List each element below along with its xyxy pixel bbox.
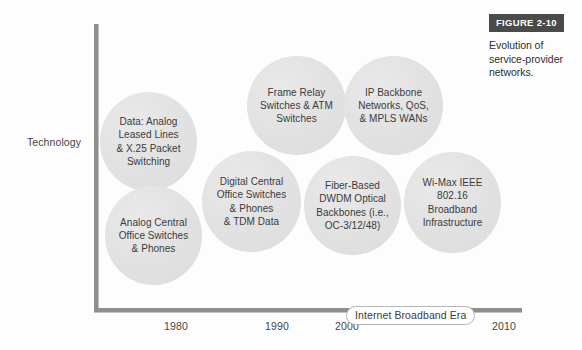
x-tick-1990: 1990: [253, 320, 301, 332]
bubble-analog-central-label: Analog Central Office Switches & Phones: [119, 216, 188, 256]
bubble-digital-central-label: Digital Central Office Switches & Phones…: [217, 175, 286, 228]
bubble-wi-max: Wi-Max IEEE 802.16 Broadband Infrastruct…: [404, 152, 501, 253]
bubble-fiber-dwdm: Fiber-Based DWDM Optical Backbones (i.e.…: [304, 156, 401, 255]
x-tick-1980: 1980: [152, 320, 200, 332]
bubble-analog-central: Analog Central Office Switches & Phones: [105, 186, 202, 285]
x-tick-2010: 2010: [480, 320, 528, 332]
bubble-data-analog: Data: Analog Leased Lines & X.25 Packet …: [100, 92, 197, 191]
bubble-digital-central: Digital Central Office Switches & Phones…: [202, 151, 301, 252]
bubble-ip-backbone: IP Backbone Networks, QoS, & MPLS WANs: [344, 56, 443, 155]
figure-caption-block: FIGURE 2-10 Evolution of service-provide…: [489, 12, 577, 80]
figure-number-badge: FIGURE 2-10: [489, 14, 564, 32]
bubble-ip-backbone-label: IP Backbone Networks, QoS, & MPLS WANs: [358, 86, 429, 126]
y-axis-title: Technology: [16, 136, 92, 148]
bubble-frame-relay: Frame Relay Switches & ATM Switches: [247, 56, 346, 155]
annotation-internet-broadband-era: Internet Broadband Era: [346, 306, 475, 325]
bubble-wi-max-label: Wi-Max IEEE 802.16 Broadband Infrastruct…: [423, 176, 483, 229]
figure-caption-text: Evolution of service-provider networks.: [489, 39, 577, 80]
bubble-frame-relay-label: Frame Relay Switches & ATM Switches: [260, 86, 333, 126]
y-axis-line: [94, 24, 98, 312]
figure-evolution-of-service-provider-networks: Technology 1980 1990 2000 2010 Frame Rel…: [0, 0, 582, 350]
bubble-data-analog-label: Data: Analog Leased Lines & X.25 Packet …: [116, 115, 180, 168]
bubble-fiber-dwdm-label: Fiber-Based DWDM Optical Backbones (i.e.…: [316, 179, 389, 232]
